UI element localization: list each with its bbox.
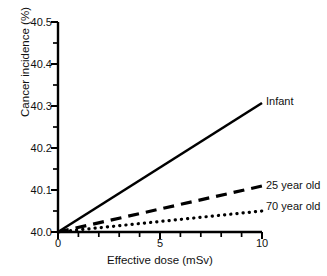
plot-area — [0, 0, 327, 276]
plot-background — [58, 22, 262, 232]
cancer-incidence-dose-chart: Cancer incidence (%) 40.0 40.1 40.2 40.3… — [0, 0, 327, 276]
